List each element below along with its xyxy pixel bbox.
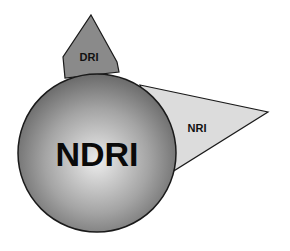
nri-label: NRI bbox=[188, 122, 207, 134]
ndri-circle: NDRI bbox=[18, 74, 176, 232]
dri-shape: DRI bbox=[63, 15, 119, 78]
dri-label: DRI bbox=[80, 51, 99, 63]
ndri-label: NDRI bbox=[55, 135, 138, 173]
venn-like-diagram: DRI NRI NDRI bbox=[0, 0, 290, 251]
